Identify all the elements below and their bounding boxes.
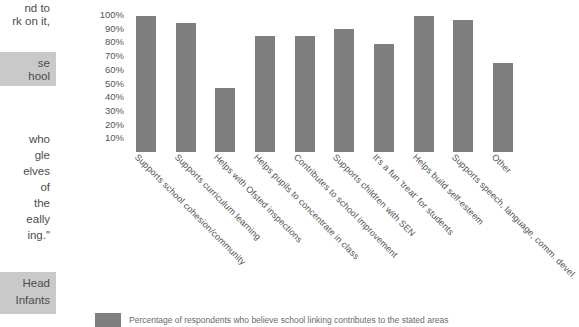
bar xyxy=(493,63,513,152)
y-axis-tick-label: 100% xyxy=(82,10,124,20)
y-axis-tick-label: 40% xyxy=(82,92,124,102)
y-axis-tick-label: 60% xyxy=(82,65,124,75)
bar xyxy=(176,23,196,152)
y-axis-tick-label: 10% xyxy=(82,133,124,143)
bar xyxy=(453,20,473,152)
chart-legend: Percentage of respondents who believe sc… xyxy=(95,313,448,327)
x-axis-tick-label: Supports children with SEN xyxy=(331,152,417,238)
plot-area xyxy=(126,0,523,152)
y-axis-tick-label: 90% xyxy=(82,24,124,34)
x-axis-tick-label: Helps build self-esteem xyxy=(411,152,486,227)
bar xyxy=(414,16,434,152)
y-axis-tick-label: 80% xyxy=(82,37,124,47)
y-axis-tick-label: 70% xyxy=(82,51,124,61)
x-axis-tick-label: Other xyxy=(490,152,513,175)
legend-label: Percentage of respondents who believe sc… xyxy=(129,315,448,325)
y-axis-tick-label: 50% xyxy=(82,79,124,89)
y-axis-tick-label: 20% xyxy=(82,120,124,130)
bar xyxy=(334,29,354,152)
x-axis-tick-label: It's a fun 'treat' for students xyxy=(371,152,456,237)
bar xyxy=(255,36,275,152)
bar xyxy=(295,36,315,152)
x-axis-labels: Supports school cohesion/communitySuppor… xyxy=(126,152,523,302)
bar xyxy=(136,16,156,152)
legend-swatch-icon xyxy=(95,313,121,327)
bar xyxy=(374,44,394,152)
y-axis-tick-label: 30% xyxy=(82,106,124,116)
bar xyxy=(215,88,235,152)
y-axis: 100%90%80%70%60%50%40%30%20%10% xyxy=(80,0,124,160)
